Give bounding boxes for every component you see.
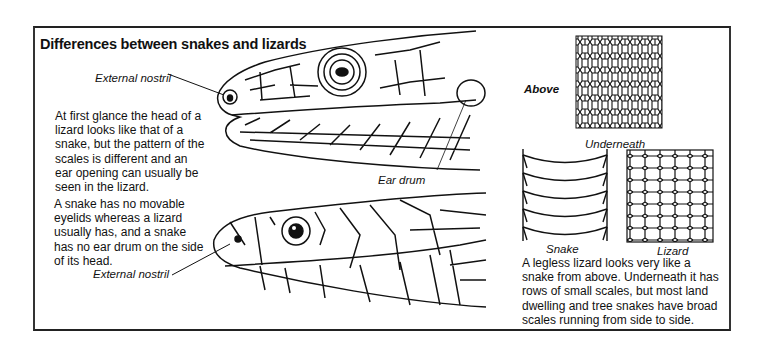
snake-head-illustration (172, 193, 486, 307)
snake-belly-illustration (523, 149, 607, 241)
above-scales-pattern (576, 36, 662, 128)
lizard-belly-pattern (627, 150, 713, 242)
lizard-head-illustration (168, 31, 485, 170)
lizard-ear-drum (457, 80, 485, 106)
illustrations (0, 0, 763, 342)
